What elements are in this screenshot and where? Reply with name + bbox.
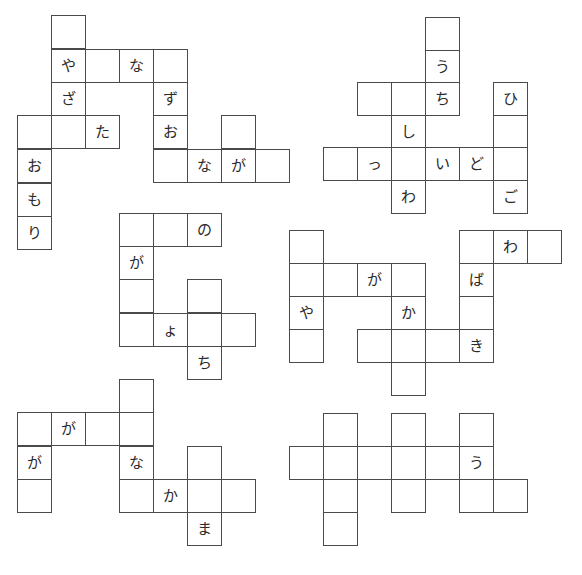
blank-answer-cell[interactable] bbox=[17, 412, 52, 446]
blank-answer-cell[interactable] bbox=[459, 296, 494, 330]
blank-answer-cell[interactable] bbox=[153, 149, 188, 183]
blank-answer-cell[interactable] bbox=[425, 329, 460, 363]
blank-answer-cell[interactable] bbox=[391, 263, 426, 297]
cell-character: ひ bbox=[503, 92, 518, 107]
cell-character: い bbox=[435, 157, 450, 172]
blank-answer-cell[interactable] bbox=[323, 479, 358, 513]
blank-answer-cell[interactable] bbox=[119, 479, 154, 513]
blank-answer-cell[interactable] bbox=[323, 413, 358, 447]
blank-answer-cell[interactable] bbox=[391, 329, 426, 363]
blank-answer-cell[interactable] bbox=[391, 362, 426, 396]
cell-character: お bbox=[163, 125, 178, 140]
blank-answer-cell[interactable] bbox=[51, 115, 86, 149]
blank-answer-cell[interactable] bbox=[289, 329, 324, 363]
blank-answer-cell[interactable] bbox=[119, 279, 154, 313]
cell-character: が bbox=[367, 273, 382, 288]
given-letter-cell: か bbox=[153, 479, 188, 513]
given-letter-cell: い bbox=[425, 147, 460, 181]
cell-character: の bbox=[197, 223, 212, 238]
given-letter-cell: や bbox=[51, 49, 86, 83]
cell-character: ご bbox=[503, 190, 518, 205]
given-letter-cell: な bbox=[119, 49, 154, 83]
blank-answer-cell[interactable] bbox=[493, 147, 528, 181]
blank-answer-cell[interactable] bbox=[459, 230, 494, 264]
blank-answer-cell[interactable] bbox=[391, 82, 426, 116]
blank-answer-cell[interactable] bbox=[323, 512, 358, 546]
given-letter-cell: が bbox=[51, 412, 86, 446]
blank-answer-cell[interactable] bbox=[357, 446, 392, 480]
given-letter-cell: き bbox=[459, 329, 494, 363]
blank-answer-cell[interactable] bbox=[221, 479, 256, 513]
blank-answer-cell[interactable] bbox=[391, 479, 426, 513]
blank-answer-cell[interactable] bbox=[221, 115, 256, 149]
cell-character: ち bbox=[435, 92, 450, 107]
blank-answer-cell[interactable] bbox=[51, 15, 86, 49]
blank-answer-cell[interactable] bbox=[187, 313, 222, 347]
cell-character: な bbox=[197, 159, 212, 174]
blank-answer-cell[interactable] bbox=[119, 313, 154, 347]
given-letter-cell: か bbox=[391, 296, 426, 330]
given-letter-cell: が bbox=[357, 263, 392, 297]
given-letter-cell: ち bbox=[187, 346, 222, 380]
blank-answer-cell[interactable] bbox=[153, 213, 188, 247]
cell-character: ず bbox=[163, 92, 178, 107]
blank-answer-cell[interactable] bbox=[357, 329, 392, 363]
given-letter-cell: ま bbox=[187, 512, 222, 546]
blank-answer-cell[interactable] bbox=[527, 230, 562, 264]
blank-answer-cell[interactable] bbox=[153, 49, 188, 83]
cell-character: か bbox=[401, 306, 416, 321]
given-letter-cell: の bbox=[187, 213, 222, 247]
blank-answer-cell[interactable] bbox=[425, 446, 460, 480]
cell-character: ざ bbox=[61, 92, 76, 107]
given-letter-cell: も bbox=[17, 183, 52, 217]
blank-answer-cell[interactable] bbox=[85, 412, 120, 446]
cell-character: う bbox=[469, 456, 484, 471]
blank-answer-cell[interactable] bbox=[17, 115, 52, 149]
blank-answer-cell[interactable] bbox=[187, 479, 222, 513]
cell-character: り bbox=[27, 226, 42, 241]
blank-answer-cell[interactable] bbox=[289, 263, 324, 297]
blank-answer-cell[interactable] bbox=[119, 213, 154, 247]
given-letter-cell: ず bbox=[153, 82, 188, 116]
blank-answer-cell[interactable] bbox=[391, 446, 426, 480]
given-letter-cell: ょ bbox=[153, 313, 188, 347]
cell-character: か bbox=[163, 489, 178, 504]
blank-answer-cell[interactable] bbox=[255, 149, 290, 183]
blank-answer-cell[interactable] bbox=[85, 49, 120, 83]
blank-answer-cell[interactable] bbox=[221, 313, 256, 347]
given-letter-cell: お bbox=[153, 115, 188, 149]
given-letter-cell: わ bbox=[493, 230, 528, 264]
blank-answer-cell[interactable] bbox=[493, 115, 528, 149]
blank-answer-cell[interactable] bbox=[119, 379, 154, 413]
blank-answer-cell[interactable] bbox=[289, 446, 324, 480]
blank-answer-cell[interactable] bbox=[323, 446, 358, 480]
given-letter-cell: ご bbox=[493, 180, 528, 214]
cell-character: し bbox=[401, 125, 416, 140]
blank-answer-cell[interactable] bbox=[187, 279, 222, 313]
blank-answer-cell[interactable] bbox=[187, 446, 222, 480]
blank-answer-cell[interactable] bbox=[425, 17, 460, 51]
cell-character: ま bbox=[197, 522, 212, 537]
cell-character: や bbox=[61, 59, 76, 74]
given-letter-cell: や bbox=[289, 296, 324, 330]
blank-answer-cell[interactable] bbox=[391, 413, 426, 447]
blank-answer-cell[interactable] bbox=[323, 263, 358, 297]
cell-character: わ bbox=[503, 240, 518, 255]
cell-character: が bbox=[129, 256, 144, 271]
blank-answer-cell[interactable] bbox=[391, 147, 426, 181]
blank-answer-cell[interactable] bbox=[17, 479, 52, 513]
given-letter-cell: な bbox=[119, 446, 154, 480]
blank-answer-cell[interactable] bbox=[459, 479, 494, 513]
blank-answer-cell[interactable] bbox=[289, 230, 324, 264]
blank-answer-cell[interactable] bbox=[323, 147, 358, 181]
cell-character: が bbox=[27, 456, 42, 471]
blank-answer-cell[interactable] bbox=[119, 412, 154, 446]
given-letter-cell: う bbox=[425, 50, 460, 84]
blank-answer-cell[interactable] bbox=[357, 82, 392, 116]
blank-answer-cell[interactable] bbox=[459, 413, 494, 447]
cell-character: た bbox=[95, 125, 110, 140]
given-letter-cell: た bbox=[85, 115, 120, 149]
blank-answer-cell[interactable] bbox=[493, 479, 528, 513]
cell-character: が bbox=[231, 159, 246, 174]
given-letter-cell: っ bbox=[357, 147, 392, 181]
